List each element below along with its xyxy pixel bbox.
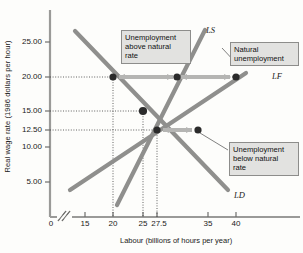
callout-unemployment-below-natural-rate: Unemployment below natural rate bbox=[229, 142, 299, 176]
callout-above-line2: above natural bbox=[125, 42, 188, 51]
axis-break-icon bbox=[57, 211, 72, 221]
data-markers bbox=[109, 73, 239, 133]
curve-label-ld: LD bbox=[234, 190, 245, 200]
marker-equilibrium bbox=[139, 107, 147, 115]
callout-natural-line1: Natural bbox=[234, 45, 296, 54]
curve-label-ls: LS bbox=[206, 25, 215, 35]
marker-ld-20 bbox=[109, 73, 116, 80]
x-tick-label-40: 40 bbox=[228, 219, 244, 228]
callout-above-line3: rate bbox=[125, 51, 188, 60]
curve-label-lf: LF bbox=[272, 71, 282, 81]
callout-below-line1: Unemployment bbox=[233, 145, 296, 154]
callout-natural-line2: unemployment bbox=[234, 54, 296, 63]
y-tick-label-12-50: 12.50 bbox=[8, 125, 42, 134]
y-tick-label-15: 15.00 bbox=[8, 106, 42, 115]
x-tick-label-27-5: 27.5 bbox=[149, 219, 169, 228]
callout-unemployment-above-natural-rate: Unemployment above natural rate bbox=[121, 30, 191, 64]
marker-ls-1250 bbox=[153, 126, 160, 133]
y-tick-label-10: 10.00 bbox=[8, 142, 42, 151]
y-tick-label-5: 5.00 bbox=[8, 177, 42, 186]
x-tick-label-15: 15 bbox=[77, 219, 93, 228]
callout-above-line1: Unemployment bbox=[125, 33, 188, 42]
x-tick-label-20: 20 bbox=[105, 219, 121, 228]
leader-unemployment-below bbox=[200, 133, 228, 150]
callout-natural-unemployment: Natural unemployment bbox=[230, 42, 299, 66]
x-tick-label-0: 0 bbox=[43, 219, 59, 228]
x-axis-title: Labour (billions of hours per year) bbox=[120, 236, 232, 245]
y-tick-label-20: 20.00 bbox=[8, 72, 42, 81]
x-tick-label-35: 35 bbox=[200, 219, 216, 228]
marker-lf-20 bbox=[232, 73, 239, 80]
callout-below-line3: rate bbox=[233, 163, 296, 172]
marker-ls-20 bbox=[173, 73, 180, 80]
marker-ld-1250 bbox=[194, 126, 201, 133]
y-tick-label-25: 25.00 bbox=[8, 37, 42, 46]
callout-below-line2: below natural bbox=[233, 154, 296, 163]
